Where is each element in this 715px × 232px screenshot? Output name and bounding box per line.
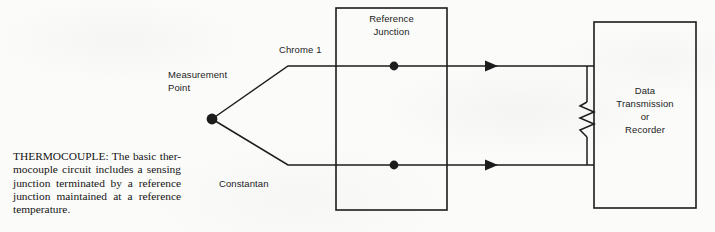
current-arrow-top-icon xyxy=(485,61,498,72)
resistor-zigzag-icon xyxy=(580,102,594,137)
constantan-wire-label: Constantan xyxy=(219,177,299,190)
reference-junction-label: Reference Junction xyxy=(336,12,447,38)
data-recorder-label: Data Transmission or Recorder xyxy=(594,84,696,136)
chromel-wire xyxy=(212,66,594,119)
measurement-junction-dot-icon xyxy=(207,114,218,125)
constantan-wire xyxy=(212,119,594,165)
thermocouple-figure: Measurement Point Chrome 1 Constantan Re… xyxy=(0,0,715,232)
figure-caption: THERMOCOUPLE: The basic ther- mocouple c… xyxy=(13,150,181,216)
measurement-point-label: Measurement Point xyxy=(168,68,260,94)
reference-junction-dot-bottom-icon xyxy=(390,161,399,170)
reference-junction-box xyxy=(336,8,447,210)
current-arrow-bottom-icon xyxy=(485,160,498,171)
reference-junction-dot-top-icon xyxy=(390,62,399,71)
chromel-wire-label: Chrome 1 xyxy=(279,43,343,56)
